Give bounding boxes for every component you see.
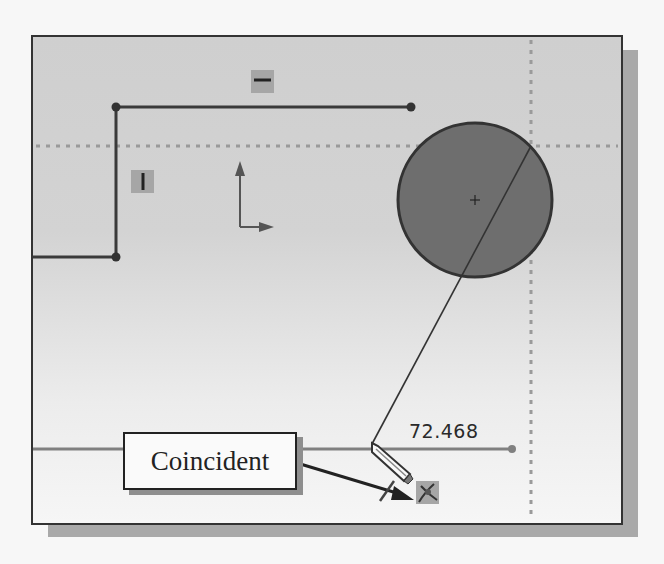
origin-axes-icon xyxy=(235,161,274,232)
dimension-value[interactable]: 72.468 xyxy=(409,420,478,442)
sketch-polyline xyxy=(33,107,411,257)
endpoint xyxy=(407,103,416,112)
coincident-callout: Coincident xyxy=(123,432,297,490)
vertical-relation-icon xyxy=(131,170,154,193)
callout-label: Coincident xyxy=(151,446,269,477)
sketch-geometry xyxy=(0,0,664,564)
horizontal-relation-icon xyxy=(251,70,274,93)
endpoint xyxy=(112,103,121,112)
callout-arrow xyxy=(297,463,400,494)
coincident-relation-icon xyxy=(416,481,439,504)
endpoint xyxy=(112,253,121,262)
